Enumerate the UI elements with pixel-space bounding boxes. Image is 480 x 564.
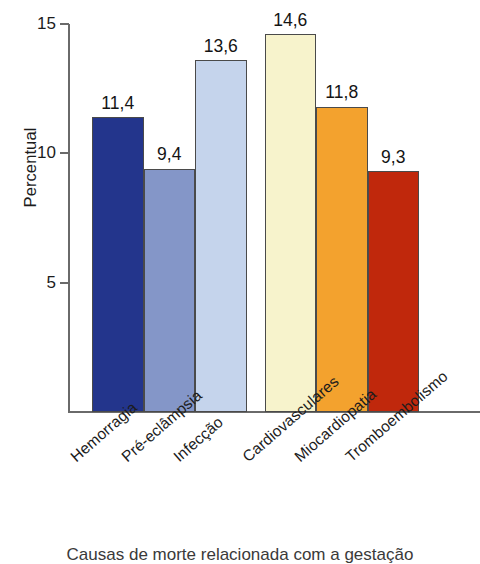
bar-value-label-6: 9,3 — [362, 149, 426, 167]
bar-3 — [195, 60, 247, 412]
bar-value-label-2: 9,4 — [138, 146, 202, 164]
bar-chart: Percentual 51015 11,49,413,614,611,89,3 … — [0, 0, 480, 564]
y-tick-label: 5 — [0, 274, 56, 291]
bar-2 — [144, 169, 196, 412]
bar-value-label-3: 13,6 — [189, 38, 253, 56]
y-axis-title: Percentual — [21, 88, 40, 248]
bar-1 — [92, 117, 144, 412]
plot-area: 11,49,413,614,611,89,3 — [68, 24, 480, 412]
bar-value-label-1: 11,4 — [86, 95, 150, 113]
bar-4 — [265, 34, 317, 412]
y-tick-label: 10 — [0, 144, 56, 161]
bar-value-label-4: 14,6 — [259, 12, 323, 30]
y-tick-label: 15 — [0, 15, 56, 32]
bar-value-label-5: 11,8 — [310, 84, 374, 102]
bar-6 — [368, 171, 420, 412]
bar-5 — [316, 107, 368, 412]
x-axis-title: Causas de morte relacionada com a gestaç… — [0, 545, 480, 564]
